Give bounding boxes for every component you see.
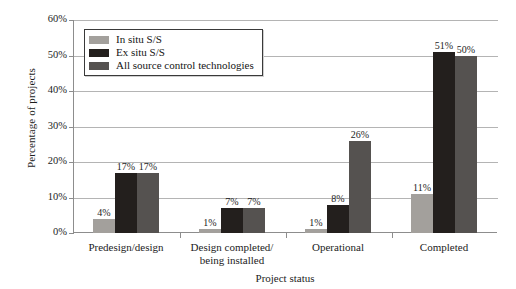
- y-tick-mark: [69, 91, 74, 92]
- bar: [93, 219, 115, 233]
- bar-value-label: 7%: [237, 196, 271, 207]
- y-tick-label: 20%: [23, 155, 67, 166]
- bar-value-label: 26%: [343, 129, 377, 140]
- x-category-label: Design completed/being installed: [172, 241, 292, 266]
- legend-swatch: [89, 49, 109, 57]
- bar: [115, 173, 137, 233]
- bar: [137, 173, 159, 233]
- legend: In situ S/SEx situ S/SAll source control…: [84, 29, 263, 76]
- legend-item: Ex situ S/S: [89, 46, 254, 59]
- bar-value-label: 17%: [131, 161, 165, 172]
- y-tick-label: 40%: [23, 84, 67, 95]
- y-tick-label: 30%: [23, 120, 67, 131]
- bar: [327, 205, 349, 233]
- legend-item: All source control technologies: [89, 59, 254, 72]
- bar-value-label: 50%: [449, 44, 483, 55]
- bar: [221, 208, 243, 233]
- y-tick-mark: [69, 162, 74, 163]
- y-tick-mark: [69, 233, 74, 234]
- bar-group: 1%8%26%: [305, 20, 371, 233]
- y-tick-label: 50%: [23, 49, 67, 60]
- x-tick-mark: [180, 233, 181, 238]
- bar: [199, 229, 221, 233]
- legend-item: In situ S/S: [89, 33, 254, 46]
- legend-label: All source control technologies: [116, 59, 254, 72]
- x-axis-title: Project status: [73, 272, 497, 284]
- y-tick-mark: [69, 127, 74, 128]
- bar: [349, 141, 371, 233]
- bar: [411, 194, 433, 233]
- legend-swatch: [89, 36, 109, 44]
- y-tick-label: 10%: [23, 191, 67, 202]
- x-tick-mark: [286, 233, 287, 238]
- bar: [455, 56, 477, 234]
- x-category-label: Predesign/design: [66, 241, 186, 254]
- x-category-label: Operational: [278, 241, 398, 254]
- bar: [243, 208, 265, 233]
- legend-label: Ex situ S/S: [116, 46, 165, 59]
- x-category-label: Completed: [384, 241, 504, 254]
- bar: [433, 52, 455, 233]
- legend-label: In situ S/S: [116, 33, 162, 46]
- bar-chart: Percentage of projects 0%10%20%30%40%50%…: [0, 0, 516, 289]
- y-tick-label: 0%: [23, 226, 67, 237]
- y-tick-mark: [69, 56, 74, 57]
- x-tick-mark: [392, 233, 393, 238]
- y-tick-mark: [69, 20, 74, 21]
- y-tick-mark: [69, 198, 74, 199]
- y-tick-label: 60%: [23, 13, 67, 24]
- bar: [305, 229, 327, 233]
- bar-group: 11%51%50%: [411, 20, 477, 233]
- legend-swatch: [89, 62, 109, 70]
